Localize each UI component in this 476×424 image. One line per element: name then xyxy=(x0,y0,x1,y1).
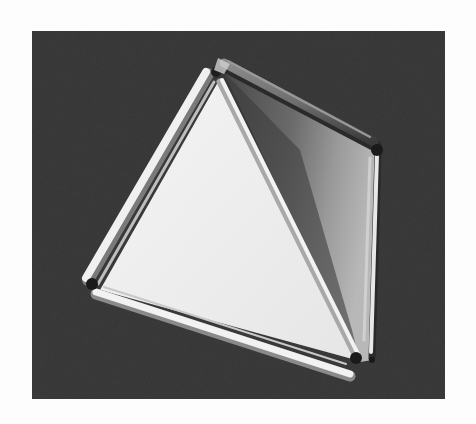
tetrahedron-photo xyxy=(32,31,445,399)
joint-left xyxy=(86,278,98,290)
joint-bottom-right xyxy=(369,357,375,363)
joint-right xyxy=(371,144,383,156)
tetrahedron-illustration xyxy=(32,31,445,399)
joint-bottom xyxy=(350,352,362,364)
page-canvas: Photograph of a tetrahedral frame of whi… xyxy=(0,0,476,424)
